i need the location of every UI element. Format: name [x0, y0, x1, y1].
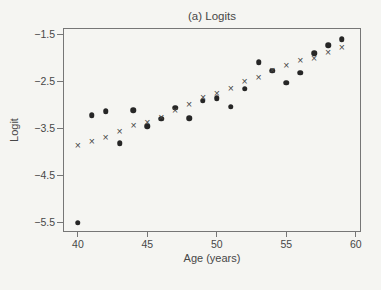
scatter-cross: × [242, 76, 248, 87]
scatter-cross: × [144, 117, 150, 128]
scatter-cross: × [89, 136, 95, 147]
plot-area: 4045505560−1.5−2.5−3.5−4.5−5.5××××××××××… [63, 28, 361, 232]
scatter-dot [117, 140, 123, 146]
scatter-dot [75, 220, 81, 226]
x-tick-label: 50 [202, 238, 232, 250]
scatter-cross: × [311, 52, 317, 63]
logit-scatter-figure: (a) Logits Logit 4045505560−1.5−2.5−3.5−… [0, 0, 381, 290]
x-tick-mark [147, 232, 148, 237]
scatter-dot [256, 60, 262, 66]
scatter-cross: × [103, 131, 109, 142]
y-tick-label: −5.5 [17, 216, 55, 228]
y-tick-label: −4.5 [17, 169, 55, 181]
scatter-cross: × [228, 82, 234, 93]
scatter-cross: × [117, 126, 123, 137]
scatter-cross: × [214, 88, 220, 99]
x-tick-mark [216, 232, 217, 237]
chart-title: (a) Logits [63, 10, 361, 22]
scatter-dot [297, 70, 303, 76]
x-tick-label: 45 [132, 238, 162, 250]
scatter-cross: × [200, 92, 206, 103]
scatter-cross: × [255, 72, 261, 83]
scatter-dot [186, 116, 192, 122]
scatter-dot [228, 104, 234, 110]
x-tick-label: 40 [63, 238, 93, 250]
scatter-cross: × [297, 55, 303, 66]
y-tick-mark [57, 34, 63, 35]
y-tick-mark [57, 222, 63, 223]
y-tick-label: −1.5 [17, 28, 55, 40]
x-axis-label: Age (years) [63, 252, 361, 264]
y-tick-label: −3.5 [17, 122, 55, 134]
x-tick-label: 60 [341, 238, 371, 250]
x-tick-label: 55 [271, 238, 301, 250]
x-tick-mark [286, 232, 287, 237]
scatter-cross: × [283, 60, 289, 71]
scatter-cross: × [75, 139, 81, 150]
scatter-cross: × [186, 99, 192, 110]
x-tick-mark [355, 232, 356, 237]
y-tick-label: −2.5 [17, 75, 55, 87]
scatter-cross: × [158, 112, 164, 123]
y-tick-mark [57, 175, 63, 176]
scatter-dot [89, 113, 95, 119]
scatter-cross: × [325, 47, 331, 58]
scatter-cross: × [269, 65, 275, 76]
scatter-cross: × [172, 105, 178, 116]
scatter-dot [131, 108, 137, 114]
scatter-cross: × [130, 120, 136, 131]
x-tick-mark [77, 232, 78, 237]
scatter-dot [103, 108, 109, 114]
scatter-cross: × [339, 42, 345, 53]
y-tick-mark [57, 128, 63, 129]
y-tick-mark [57, 81, 63, 82]
scatter-dot [284, 80, 290, 86]
